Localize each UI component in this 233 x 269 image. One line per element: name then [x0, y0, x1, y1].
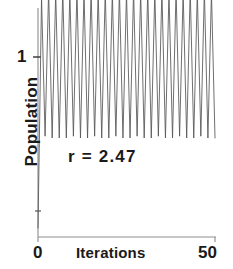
- x-tick-label-50: 50: [198, 244, 217, 261]
- y-axis-label: Population: [23, 67, 40, 177]
- x-tick-label-0: 0: [33, 244, 42, 261]
- x-axis-label: Iterations: [76, 245, 146, 260]
- y-tick-label-1: 1: [17, 48, 26, 65]
- chart-figure: Population 1 Iterations 0 50 r = 2.47: [0, 0, 233, 269]
- r-parameter-annotation: r = 2.47: [68, 148, 137, 165]
- population-series-line: [38, 0, 215, 228]
